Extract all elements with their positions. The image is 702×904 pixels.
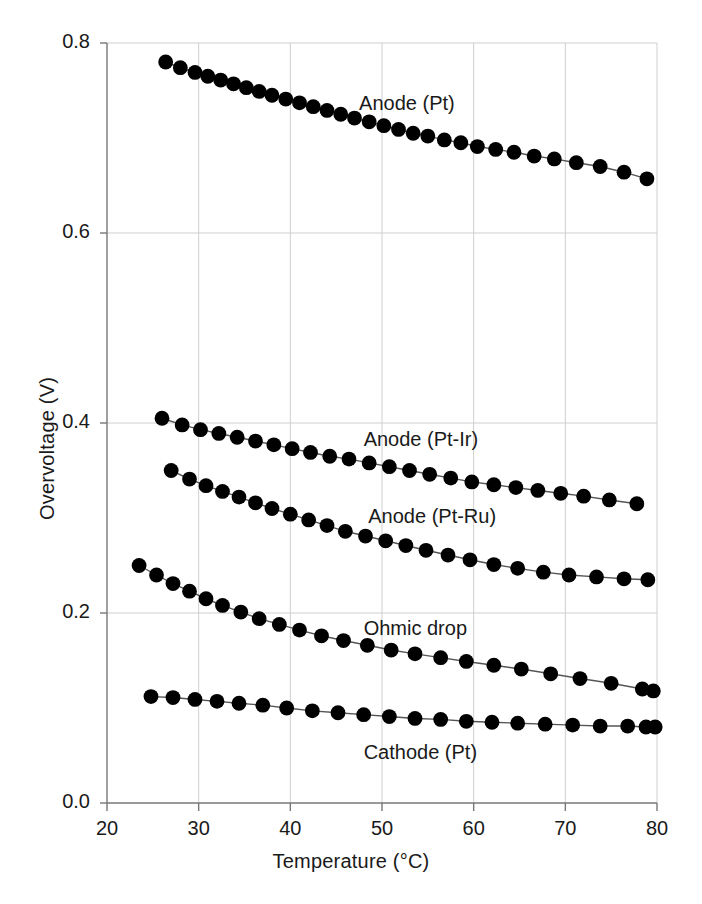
x-axis-title: Temperature (°C) [0,850,702,873]
series-0 [158,55,654,187]
x-tick-label: 80 [627,817,687,840]
x-tick-label: 70 [535,817,595,840]
series-annotation-anode-pt-ir: Anode (Pt-Ir) [364,428,478,451]
x-tick-label: 20 [77,817,137,840]
y-tick-label: 0.4 [30,410,90,433]
y-axis-title: Overvoltage (V) [36,377,59,520]
plot-canvas [0,0,702,904]
y-tick-label: 0.0 [30,790,90,813]
series-annotation-anode-pt: Anode (Pt) [359,92,455,115]
x-tick-label: 50 [352,817,412,840]
series-annotation-anode-pt-ru: Anode (Pt-Ru) [368,505,496,528]
y-tick-label: 0.8 [30,30,90,53]
y-tick-label: 0.6 [30,220,90,243]
x-tick-label: 60 [444,817,504,840]
y-tick-label: 0.2 [30,600,90,623]
series-annotation-cathode-pt: Cathode (Pt) [364,741,477,764]
x-tick-label: 30 [169,817,229,840]
x-tick-label: 40 [260,817,320,840]
series-4 [144,689,663,734]
chart-figure: Overvoltage (V) Temperature (°C) 0.00.20… [0,0,702,904]
series-annotation-ohmic-drop: Ohmic drop [364,617,467,640]
